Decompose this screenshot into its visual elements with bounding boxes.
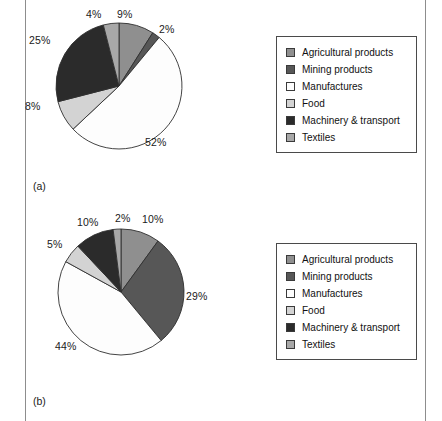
legend-b-label-machinery: Machinery & transport: [302, 322, 400, 333]
pie-b-label-textiles: 2%: [115, 212, 130, 224]
legend-b-label-manufactures: Manufactures: [302, 288, 363, 299]
pie-b-label-agricultural: 10%: [142, 213, 163, 225]
legend-a-swatch-manufactures: [286, 82, 295, 91]
legend-a-item-food[interactable]: Food: [286, 95, 407, 112]
pie-a-label-machinery: 25%: [29, 34, 50, 46]
legend-b-swatch-machinery: [286, 323, 295, 332]
legend-a-label-agricultural: Agricultural products: [302, 47, 393, 58]
figure-a: 4% 9% 2% 25% 8% 52%: [33, 8, 223, 158]
legend-a-item-machinery[interactable]: Machinery & transport: [286, 112, 407, 129]
legend-b-label-agricultural: Agricultural products: [302, 254, 393, 265]
pie-b-label-manufactures: 44%: [55, 340, 76, 352]
legend-b-item-food[interactable]: Food: [286, 302, 407, 319]
pie-a-label-textiles: 4%: [86, 8, 101, 20]
pie-chart-a: 4% 9% 2% 25% 8% 52%: [33, 8, 223, 158]
legend-a-label-machinery: Machinery & transport: [302, 115, 400, 126]
legend-a-label-manufactures: Manufactures: [302, 81, 363, 92]
legend-b-swatch-mining: [286, 272, 295, 281]
legend-b-label-food: Food: [302, 305, 325, 316]
legend-a-swatch-mining: [286, 65, 295, 74]
legend-a-swatch-machinery: [286, 116, 295, 125]
right-page-rule: [425, 0, 426, 421]
legend-a-item-manufactures[interactable]: Manufactures: [286, 78, 407, 95]
pie-b-label-food: 5%: [47, 238, 62, 250]
legend-b-swatch-food: [286, 306, 295, 315]
pie-chart-b: 2% 10% 10% 5% 29% 44%: [33, 212, 223, 362]
legend-a-label-textiles: Textiles: [302, 132, 335, 143]
legend-b-item-manufactures[interactable]: Manufactures: [286, 285, 407, 302]
figure-b-caption: (b): [33, 395, 46, 407]
legend-b-label-mining: Mining products: [302, 271, 373, 282]
figure-a-caption: (a): [33, 180, 46, 192]
legend-b-item-mining[interactable]: Mining products: [286, 268, 407, 285]
legend-a-swatch-agricultural: [286, 48, 295, 57]
legend-a-swatch-food: [286, 99, 295, 108]
legend-a-item-agricultural[interactable]: Agricultural products: [286, 44, 407, 61]
pie-a-label-agricultural: 9%: [117, 8, 132, 20]
legend-a-label-mining: Mining products: [302, 64, 373, 75]
legend-b: Agricultural products Mining products Ma…: [276, 243, 417, 360]
legend-b-swatch-agricultural: [286, 255, 295, 264]
legend-a-item-mining[interactable]: Mining products: [286, 61, 407, 78]
legend-b-label-textiles: Textiles: [302, 339, 335, 350]
figure-b: 2% 10% 10% 5% 29% 44%: [33, 212, 223, 362]
left-page-rule: [25, 0, 26, 421]
legend-b-item-agricultural[interactable]: Agricultural products: [286, 251, 407, 268]
pie-b-label-machinery: 10%: [77, 216, 98, 228]
legend-b-swatch-textiles: [286, 340, 295, 349]
legend-b-item-machinery[interactable]: Machinery & transport: [286, 319, 407, 336]
pie-a-label-food: 8%: [25, 100, 40, 112]
legend-b-swatch-manufactures: [286, 289, 295, 298]
pie-b-label-mining: 29%: [186, 290, 207, 302]
legend-a: Agricultural products Mining products Ma…: [276, 36, 417, 153]
pie-a-label-manufactures: 52%: [145, 136, 166, 148]
legend-a-label-food: Food: [302, 98, 325, 109]
legend-a-item-textiles[interactable]: Textiles: [286, 129, 407, 146]
pie-a-svg: [33, 8, 223, 158]
legend-a-swatch-textiles: [286, 133, 295, 142]
legend-b-item-textiles[interactable]: Textiles: [286, 336, 407, 353]
pie-a-label-mining: 2%: [159, 23, 174, 35]
